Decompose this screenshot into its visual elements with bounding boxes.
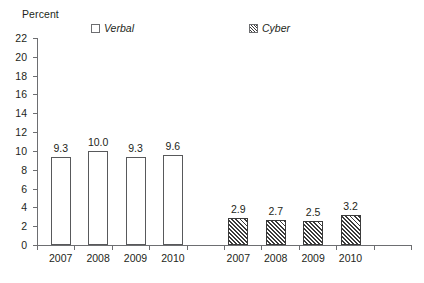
y-tick-mark bbox=[33, 57, 37, 58]
bar-cyber-2007 bbox=[228, 218, 248, 245]
y-tick-mark bbox=[33, 226, 37, 227]
legend-swatch-hatched-icon bbox=[249, 24, 258, 33]
legend-item-cyber: Cyber bbox=[249, 22, 290, 34]
y-axis-line bbox=[37, 38, 38, 245]
legend-swatch-open-icon bbox=[91, 24, 100, 33]
y-tick-label: 20 bbox=[15, 51, 27, 63]
y-tick-mark bbox=[33, 207, 37, 208]
bar-verbal-2007 bbox=[51, 157, 71, 245]
x-axis-label-2009: 2009 bbox=[124, 252, 147, 264]
legend-label-cyber: Cyber bbox=[262, 22, 290, 34]
bar-value-label: 9.6 bbox=[166, 140, 181, 152]
bar-value-label: 2.7 bbox=[268, 205, 283, 217]
x-axis-label-2010: 2010 bbox=[161, 252, 184, 264]
y-tick-mark bbox=[33, 76, 37, 77]
x-tick-mark bbox=[149, 245, 150, 250]
x-tick-mark bbox=[224, 245, 225, 250]
y-tick-label: 0 bbox=[21, 239, 27, 251]
x-axis-label-2007: 2007 bbox=[49, 252, 72, 264]
plot-area: 0246810121416182022 9.310.09.39.62.92.72… bbox=[37, 38, 412, 245]
y-tick-label: 22 bbox=[15, 32, 27, 44]
x-tick-mark bbox=[112, 245, 113, 250]
bar-verbal-2008 bbox=[88, 151, 108, 245]
bar-value-label: 3.2 bbox=[343, 200, 358, 212]
bar-chart: Percent Verbal Cyber 0246810121416182022… bbox=[0, 0, 424, 283]
y-tick-label: 12 bbox=[15, 126, 27, 138]
x-axis-label-2009: 2009 bbox=[301, 252, 324, 264]
x-tick-mark-end bbox=[411, 245, 412, 250]
legend-label-verbal: Verbal bbox=[104, 22, 134, 34]
y-tick-label: 2 bbox=[21, 220, 27, 232]
bar-verbal-2010 bbox=[163, 155, 183, 245]
chart-legend: Verbal Cyber bbox=[0, 22, 424, 38]
y-tick-label: 8 bbox=[21, 164, 27, 176]
bar-cyber-2009 bbox=[303, 221, 323, 245]
bar-value-label: 10.0 bbox=[88, 136, 108, 148]
y-tick-label: 4 bbox=[21, 201, 27, 213]
y-tick-label: 14 bbox=[15, 107, 27, 119]
x-axis-label-2008: 2008 bbox=[264, 252, 287, 264]
y-tick-mark bbox=[33, 94, 37, 95]
y-tick-mark bbox=[33, 132, 37, 133]
x-tick-mark bbox=[74, 245, 75, 250]
y-tick-label: 16 bbox=[15, 88, 27, 100]
x-tick-mark bbox=[336, 245, 337, 250]
y-tick-mark bbox=[33, 38, 37, 39]
bar-cyber-2008 bbox=[266, 220, 286, 245]
bar-verbal-2009 bbox=[126, 157, 146, 245]
y-axis-title: Percent bbox=[22, 8, 59, 20]
y-tick-label: 6 bbox=[21, 183, 27, 195]
bar-value-label: 2.5 bbox=[306, 206, 321, 218]
bar-cyber-2010 bbox=[341, 215, 361, 245]
bar-value-label: 9.3 bbox=[53, 142, 68, 154]
x-tick-mark bbox=[187, 245, 188, 250]
bar-value-label: 9.3 bbox=[128, 142, 143, 154]
y-tick-mark bbox=[33, 189, 37, 190]
y-tick-label: 18 bbox=[15, 70, 27, 82]
x-axis-label-2008: 2008 bbox=[86, 252, 109, 264]
legend-item-verbal: Verbal bbox=[91, 22, 134, 34]
x-tick-mark bbox=[299, 245, 300, 250]
x-tick-mark bbox=[374, 245, 375, 250]
y-tick-mark bbox=[33, 151, 37, 152]
x-tick-mark bbox=[37, 245, 38, 250]
x-tick-mark bbox=[261, 245, 262, 250]
y-tick-mark bbox=[33, 170, 37, 171]
y-tick-mark bbox=[33, 113, 37, 114]
x-axis-label-2007: 2007 bbox=[227, 252, 250, 264]
x-axis-label-2010: 2010 bbox=[339, 252, 362, 264]
bar-value-label: 2.9 bbox=[231, 203, 246, 215]
y-tick-label: 10 bbox=[15, 145, 27, 157]
